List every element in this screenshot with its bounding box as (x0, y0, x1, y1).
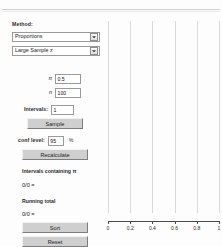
x-axis-tick (152, 221, 153, 224)
gridline (219, 21, 220, 213)
gridline (108, 21, 109, 213)
intervals-input[interactable]: 1 (51, 105, 74, 115)
x-axis-tick-label: 0.6 (171, 226, 178, 231)
conf-level-label: conf level: (18, 138, 45, 143)
x-axis-tick-label: 0.4 (149, 226, 156, 231)
x-axis-tick (108, 221, 109, 224)
intervals-containing-label: Intervals containing π (22, 169, 76, 174)
interval-plot[interactable]: 00.20.40.60.81 (106, 13, 222, 245)
gridline (175, 21, 176, 213)
parameter-input-n[interactable]: 100 (55, 88, 81, 98)
method-select[interactable]: Proportions (12, 32, 100, 42)
sort-button[interactable]: Sort (22, 222, 88, 233)
x-axis-tick (130, 221, 131, 224)
intervals-containing-value: 0/0 = (22, 183, 35, 189)
gridline (197, 21, 198, 213)
gridline (152, 21, 153, 213)
sample-button[interactable]: Sample (27, 118, 83, 129)
parameter-input-pi[interactable]: 0.5 (55, 74, 81, 84)
x-axis-line (108, 221, 219, 222)
parameter-row-pi: π 0.5 (44, 74, 81, 84)
chevron-down-icon[interactable] (90, 33, 98, 41)
control-panel: Method: Proportions Large Sample z π 0.5… (0, 13, 106, 245)
method-label: Method: (12, 22, 33, 27)
x-axis-tick (175, 221, 176, 224)
x-axis-tick-label: 0.8 (193, 226, 200, 231)
x-axis-tick (197, 221, 198, 224)
parameter-row-n: n 100 (44, 88, 81, 98)
window-top-divider (2, 9, 220, 10)
reset-button[interactable]: Reset (22, 236, 88, 247)
gridline (130, 21, 131, 213)
method-select-value: Proportions (13, 34, 90, 39)
window-top-divider-shadow (2, 11, 220, 12)
chevron-down-icon[interactable] (90, 47, 98, 55)
procedure-select[interactable]: Large Sample z (12, 46, 100, 56)
parameter-label-pi: π (44, 76, 52, 81)
x-axis-tick-label: 0 (107, 226, 110, 231)
percent-symbol: % (69, 138, 74, 143)
x-axis-tick-label: 0.2 (127, 226, 134, 231)
x-axis-tick-label: 1 (218, 226, 221, 231)
recalculate-button[interactable]: Recalculate (22, 149, 88, 160)
conf-level-input[interactable]: 95 (48, 136, 64, 146)
running-total-label: Running total (22, 199, 55, 204)
running-total-value: 0/0 = (22, 212, 35, 218)
parameter-label-n: n (44, 90, 52, 95)
procedure-select-value: Large Sample z (13, 48, 90, 53)
conf-level-row: conf level: 95 % (18, 136, 73, 146)
plot-area (108, 21, 219, 213)
x-axis-tick (219, 221, 220, 224)
intervals-label: Intervals: (24, 107, 48, 112)
intervals-row: Intervals: 1 (24, 105, 74, 115)
